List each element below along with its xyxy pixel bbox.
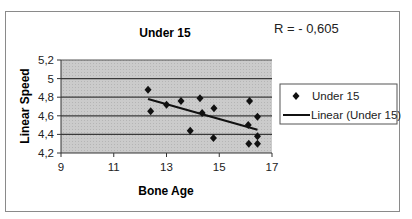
legend-item-scatter: Under 15 [312, 90, 359, 102]
y-tick-label: 4,2 [38, 147, 54, 159]
scatter-chart: Under 15 R = - 0,605 5,254,84,64,44,2 91… [0, 0, 412, 219]
x-tick-labels: 911131517 [58, 161, 279, 173]
chart-title: Under 15 [139, 26, 191, 40]
y-tick-label: 4,8 [38, 91, 54, 103]
x-tick-label: 9 [58, 161, 64, 173]
legend: Under 15 Linear (Under 15) [280, 84, 401, 124]
y-tick-label: 4,6 [38, 110, 54, 122]
y-tick-label: 5 [48, 73, 54, 85]
x-tick-label: 17 [266, 161, 279, 173]
y-tick-label: 4,4 [38, 128, 55, 140]
legend-item-trendline: Linear (Under 15) [311, 109, 401, 121]
y-tick-labels: 5,254,84,64,44,2 [38, 54, 55, 159]
x-tick-label: 13 [160, 161, 173, 173]
correlation-annotation: R = - 0,605 [274, 21, 339, 36]
x-tick-label: 11 [108, 161, 120, 173]
y-axis-title: Linear Speed [18, 68, 32, 143]
x-axis-title: Bone Age [138, 184, 194, 198]
x-tick-label: 15 [213, 161, 226, 173]
y-tick-label: 5,2 [38, 54, 54, 66]
